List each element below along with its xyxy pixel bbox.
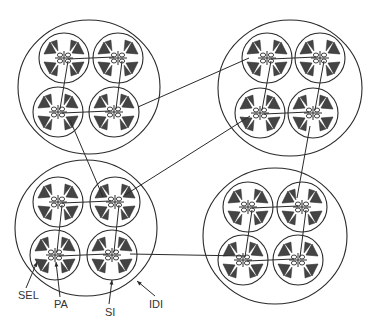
cluster-idi-bottom-right bbox=[203, 168, 347, 304]
cluster-idi-bottom-left bbox=[15, 160, 157, 296]
cluster-idi-top-left bbox=[18, 20, 160, 154]
label-idi: IDI bbox=[149, 298, 163, 310]
cluster-idi-top-right bbox=[218, 20, 362, 156]
label-sel: SEL bbox=[18, 289, 39, 301]
network-diagram bbox=[0, 0, 375, 335]
inter-cluster-link bbox=[297, 126, 310, 198]
inter-cluster-link bbox=[125, 116, 250, 195]
label-pa: PA bbox=[54, 298, 68, 310]
inter-cluster-link bbox=[138, 58, 249, 107]
label-si: SI bbox=[105, 306, 115, 318]
